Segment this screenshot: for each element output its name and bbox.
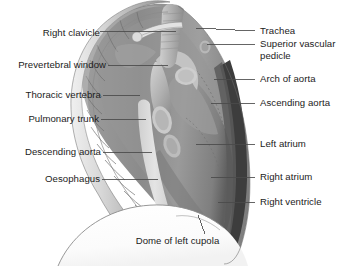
label-thoracic-vertebra: Thoracic vertebra xyxy=(0,89,101,101)
label-right-clavicle: Right clavicle xyxy=(0,27,100,39)
label-oesophagus: Oesophagus xyxy=(0,173,100,185)
label-descending-aorta: Descending aorta xyxy=(0,146,101,158)
anatomy-figure: Right clavicle Prevertebral window Thora… xyxy=(0,0,357,267)
label-right-atrium: Right atrium xyxy=(260,171,312,183)
label-right-ventricle: Right ventricle xyxy=(260,196,322,208)
label-dome-of-left-cupola: Dome of left cupola xyxy=(115,235,240,247)
label-trachea: Trachea xyxy=(260,25,295,37)
label-superior-vascular-pedicle: Superior vascular pedicle xyxy=(260,38,336,61)
label-pulmonary-trunk: Pulmonary trunk xyxy=(0,113,99,125)
label-ascending-aorta: Ascending aorta xyxy=(260,97,330,109)
label-arch-of-aorta: Arch of aorta xyxy=(260,73,316,85)
label-prevertebral-window: Prevertebral window xyxy=(0,59,106,71)
label-left-atrium: Left atrium xyxy=(260,138,306,150)
